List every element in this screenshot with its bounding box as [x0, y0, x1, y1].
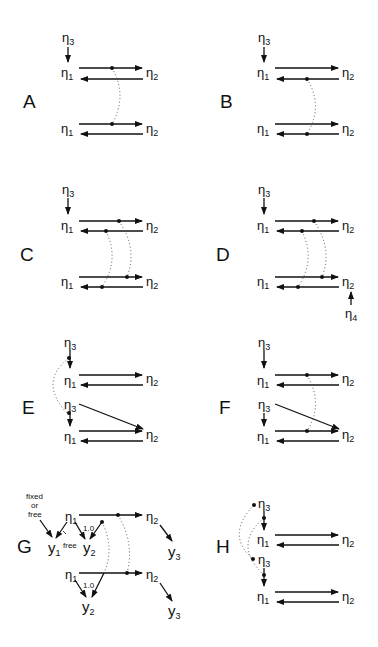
node-y1: y1	[48, 540, 61, 558]
path-diagram-figure: A B C D E F G H η3 η1 η2 η1 η2 η3 η1 η2 …	[0, 0, 378, 647]
node-y3: y3	[168, 544, 181, 562]
panel-label-e: E	[22, 398, 35, 417]
node-eta2: η2	[146, 510, 158, 526]
panel-f-paths	[264, 350, 339, 441]
panel-b-paths	[264, 47, 339, 134]
node-eta2: η2	[146, 122, 158, 138]
node-eta2: η2	[342, 372, 354, 388]
node-eta1: η1	[257, 122, 269, 138]
node-eta3: η3	[258, 398, 270, 414]
node-eta4: η4	[345, 307, 357, 323]
node-eta3: η3	[64, 398, 76, 414]
panel-g-paths	[40, 515, 172, 601]
panel-c-paths	[68, 198, 143, 287]
node-eta1: η1	[257, 66, 269, 82]
node-y3: y3	[168, 603, 181, 621]
panel-label-d: D	[216, 245, 230, 264]
panel-label-g: G	[17, 537, 32, 556]
node-eta2: η2	[146, 66, 158, 82]
node-eta3: η3	[258, 553, 270, 569]
node-eta3: η3	[62, 183, 74, 199]
node-eta1: η1	[61, 66, 73, 82]
node-eta1: η1	[61, 275, 73, 291]
node-eta2: η2	[342, 533, 354, 549]
node-y2: y2	[82, 599, 95, 617]
node-eta1: η1	[64, 430, 76, 446]
panel-label-a: A	[23, 92, 36, 111]
panel-label-h: H	[216, 537, 230, 556]
annotation-fixed: fixed	[26, 493, 43, 501]
node-eta1: η1	[65, 568, 77, 584]
node-eta3: η3	[64, 336, 76, 352]
node-eta2: η2	[146, 219, 158, 235]
loading-label-1-0: 1.0	[83, 525, 94, 533]
panel-a-paths	[68, 47, 143, 134]
node-eta2: η2	[342, 66, 354, 82]
panel-label-c: C	[20, 245, 34, 264]
node-eta2: η2	[146, 372, 158, 388]
node-eta1: η1	[257, 374, 269, 390]
annotation-free-small: free	[63, 542, 77, 550]
node-eta3: η3	[62, 31, 74, 47]
annotation-free: free	[28, 511, 42, 519]
node-eta2: η2	[342, 219, 354, 235]
panel-label-f: F	[219, 398, 231, 417]
node-eta1: η1	[257, 275, 269, 291]
node-eta2: η2	[342, 590, 354, 606]
loading-label-1-0: 1.0	[83, 582, 94, 590]
node-eta1: η1	[257, 590, 269, 606]
node-eta3: η3	[258, 183, 270, 199]
node-eta3: η3	[258, 336, 270, 352]
panel-label-b: B	[220, 92, 233, 111]
node-eta2: η2	[342, 428, 354, 444]
node-eta2: η2	[146, 275, 158, 291]
panel-h-paths	[239, 505, 339, 602]
node-eta2: η2	[146, 568, 158, 584]
annotation-or: or	[31, 502, 38, 510]
node-eta2: η2	[146, 428, 158, 444]
node-eta1: η1	[257, 219, 269, 235]
node-eta1: η1	[61, 219, 73, 235]
node-eta2: η2	[342, 275, 354, 291]
node-y2: y2	[83, 540, 96, 558]
node-eta1: η1	[257, 533, 269, 549]
panel-e-paths	[53, 350, 143, 441]
node-eta3: η3	[258, 31, 270, 47]
node-eta1: η1	[65, 510, 77, 526]
panel-d-paths	[264, 198, 351, 305]
node-eta2: η2	[342, 122, 354, 138]
node-eta1: η1	[61, 122, 73, 138]
node-eta1: η1	[64, 374, 76, 390]
node-eta3: η3	[258, 497, 270, 513]
node-eta1: η1	[257, 430, 269, 446]
